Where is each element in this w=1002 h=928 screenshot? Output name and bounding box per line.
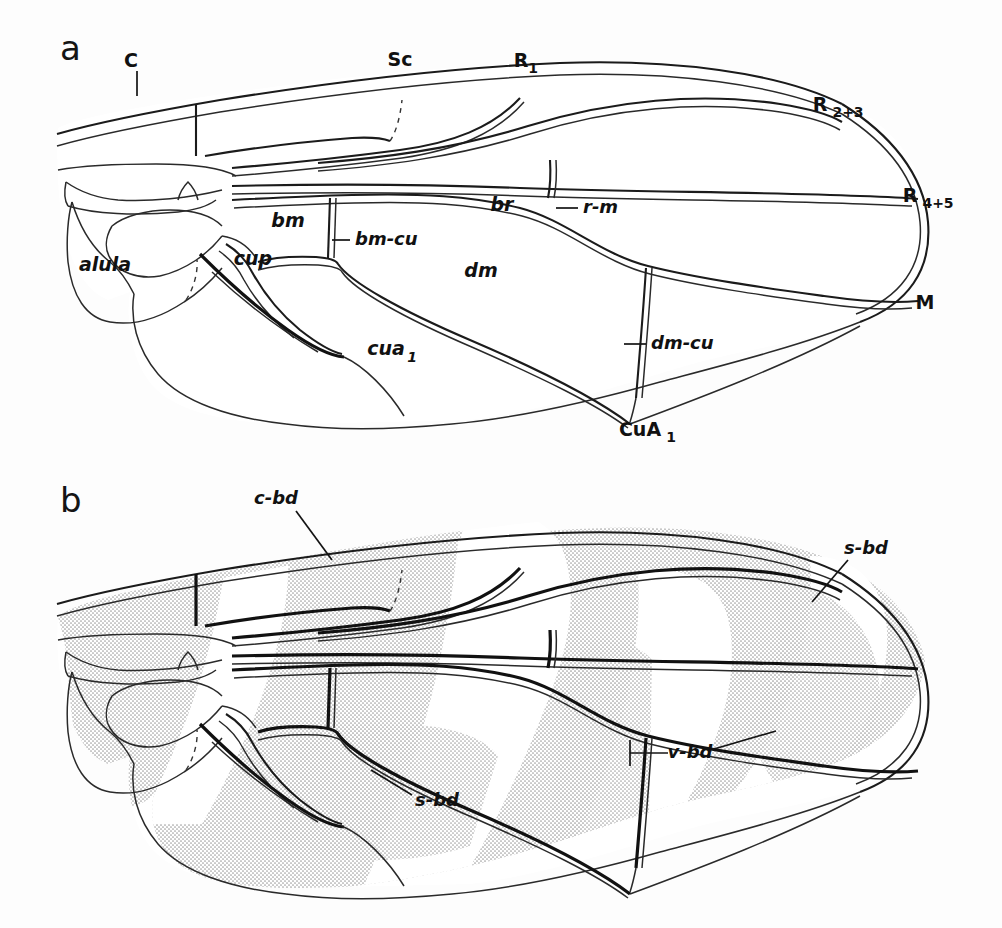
label-cell-bm: bm [271,209,304,231]
panel-b: b [57,480,928,912]
label-cell-cup: cup [234,247,272,269]
label-crossvein-dm-cu: dm-cu [651,332,714,353]
label-radius-1-sub: 1 [528,60,538,76]
label-cell-dm: dm [464,259,497,281]
label-radius-2-3-main: R [813,93,828,115]
label-cell-cua1-main: cua [367,337,405,359]
label-cell-alula: alula [79,253,131,275]
label-cell-cua1-sub: 1 [407,349,417,365]
label-crossvein-r-m: r-m [583,196,618,217]
panel-a-letter: a [60,28,81,68]
label-radius-4-5-sub: 4+5 [922,195,953,211]
label-submedial-band: s-bd [415,789,460,810]
wing-venation-figure: a [0,0,1002,928]
label-subcosta: Sc [388,48,413,70]
label-costa: C [124,49,138,71]
label-cua1-sub: 1 [666,429,676,445]
panel-a: a [57,28,954,445]
label-radius-1-main: R [514,49,529,71]
figure-canvas: a [0,0,1002,928]
label-crossvein-bm-cu: bm-cu [355,228,418,249]
label-costal-band: c-bd [254,487,299,508]
leader-c-bd [296,511,332,560]
label-cell-br: br [491,193,516,215]
label-cubitus-anterior-1: CuA 1 [619,418,676,446]
b-vein-cua1-terminal [630,868,636,892]
label-cua1-main: CuA [619,418,661,440]
b-crossvein-bm-cu [328,668,330,728]
label-vertical-band: v-bd [668,741,714,762]
label-subapical-band: s-bd [844,537,889,558]
band-s-bd-submedial [274,724,498,860]
label-media: M [916,291,935,313]
label-radius-4-5-main: R [903,184,918,206]
panel-b-pigment-bands [57,500,928,912]
panel-b-letter: b [60,480,82,520]
label-radius-2-3-sub: 2+3 [832,104,863,120]
